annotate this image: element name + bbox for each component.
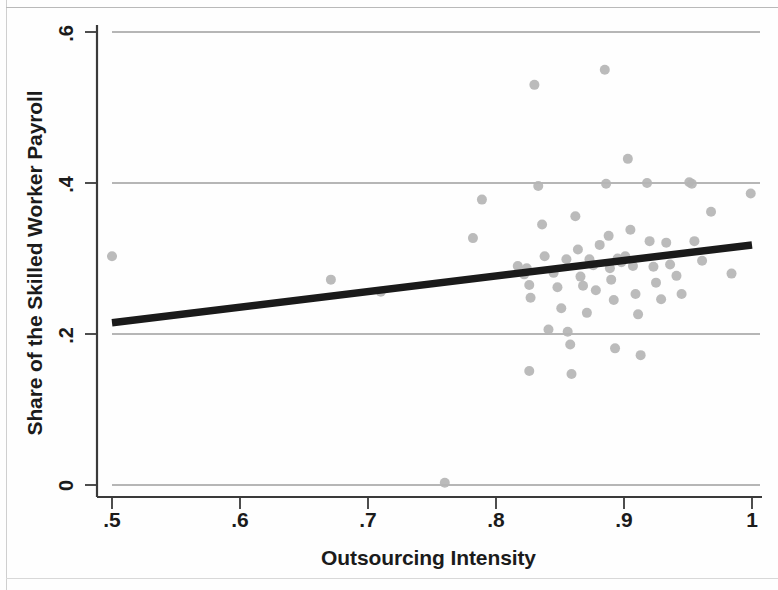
scatter-point xyxy=(573,244,583,254)
x-tick-label-07: .7 xyxy=(348,508,388,532)
y-tick-label-06: .6 xyxy=(55,14,78,54)
scatter-point xyxy=(625,225,635,235)
scatter-point xyxy=(529,80,539,90)
scatter-point xyxy=(623,154,633,164)
y-axis-title: Share of the Skilled Worker Payroll xyxy=(23,23,47,503)
scatter-point xyxy=(537,220,547,230)
scatter-point xyxy=(631,289,641,299)
x-tick-label-1: 1 xyxy=(732,508,772,532)
x-tick-label-08: .8 xyxy=(476,508,516,532)
scatter-point xyxy=(665,260,675,270)
scatter-point xyxy=(689,236,699,246)
scatter-point xyxy=(477,195,487,205)
scatter-plot-figure: Share of the Skilled Worker Payroll Outs… xyxy=(0,0,778,590)
scatter-point xyxy=(552,282,562,292)
x-tick-label-09: .9 xyxy=(604,508,644,532)
scatter-point xyxy=(524,366,534,376)
scatter-point xyxy=(582,308,592,318)
scatter-point xyxy=(326,275,336,285)
scatter-point xyxy=(526,293,536,303)
scatter-point xyxy=(671,271,681,281)
scatter-point xyxy=(540,251,550,261)
scatter-point xyxy=(746,189,756,199)
scatter-point xyxy=(524,280,534,290)
scatter-point xyxy=(727,269,737,279)
scatter-point xyxy=(645,236,655,246)
scatter-point xyxy=(578,281,588,291)
scatter-point xyxy=(642,178,652,188)
scatter-point xyxy=(661,238,671,248)
scatter-point xyxy=(651,278,661,288)
scatter-point xyxy=(697,256,707,266)
scatter-point xyxy=(565,340,575,350)
scatter-point xyxy=(595,240,605,250)
scatter-point xyxy=(633,309,643,319)
y-tick-label-04: .4 xyxy=(55,165,78,205)
scatter-point xyxy=(591,285,601,295)
scatter-point xyxy=(706,207,716,217)
scatter-point xyxy=(600,65,610,75)
scatter-point xyxy=(543,324,553,334)
scatter-point xyxy=(567,369,577,379)
x-tick-label-05: .5 xyxy=(92,508,132,532)
scatter-point xyxy=(609,295,619,305)
scatter-point xyxy=(575,272,585,282)
scatter-point xyxy=(610,343,620,353)
y-tick-label-02: .2 xyxy=(55,316,78,356)
axis-lines xyxy=(97,25,762,497)
x-axis-title: Outsourcing Intensity xyxy=(97,546,760,570)
scatter-point xyxy=(648,262,658,272)
scatter-point xyxy=(606,275,616,285)
scatter-point xyxy=(687,179,697,189)
plot-canvas xyxy=(0,0,778,590)
scatter-point xyxy=(636,350,646,360)
scatter-point xyxy=(570,211,580,221)
scatter-point xyxy=(604,231,614,241)
x-tick-label-06: .6 xyxy=(220,508,260,532)
scatter-point xyxy=(533,181,543,191)
scatter-point xyxy=(601,179,611,189)
scatter-point xyxy=(556,303,566,313)
scatter-point xyxy=(677,289,687,299)
scatter-points-group xyxy=(107,65,756,488)
scatter-point xyxy=(563,327,573,337)
scatter-point xyxy=(440,478,450,488)
scatter-point xyxy=(561,254,571,264)
scatter-point xyxy=(107,251,117,261)
y-tick-label-0: 0 xyxy=(55,466,78,506)
scatter-point xyxy=(656,294,666,304)
scatter-point xyxy=(468,233,478,243)
